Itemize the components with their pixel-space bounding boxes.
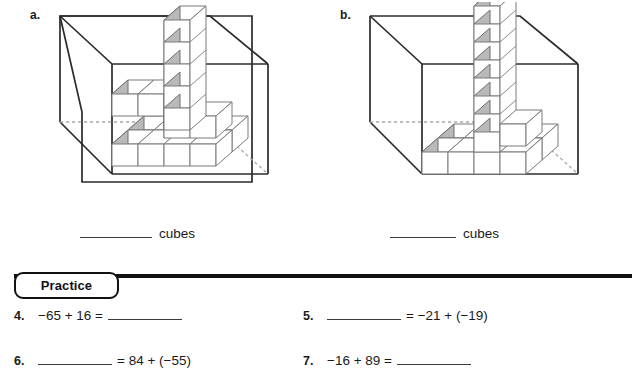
- exercise-7-answer-blank[interactable]: [397, 351, 471, 365]
- answer-line-a: cubes: [80, 224, 195, 241]
- exercise-row-2: 6. = 84 + (−55) 7. −16 + 89 =: [0, 351, 632, 392]
- exercise-4-number: 4.: [14, 309, 29, 323]
- open-box-with-stacked-cubes-a: .bx { fill:none; stroke:#2b2b2b; stroke-…: [50, 2, 280, 207]
- exercise-row-1: 4. −65 + 16 = 5. = −21 + (−19): [0, 306, 632, 351]
- exercise-7-number: 7.: [303, 354, 318, 368]
- item-letter-a: a.: [30, 8, 40, 22]
- practice-tab: Practice: [14, 272, 119, 299]
- exercise-grid: 4. −65 + 16 = 5. = −21 + (−19) 6. = 8: [0, 306, 632, 392]
- exercise-6: 6. = 84 + (−55): [14, 351, 191, 368]
- exercise-4-expression: −65 + 16 =: [38, 308, 103, 323]
- practice-section: Practice 4. −65 + 16 = 5. = −21 + (−19): [0, 262, 632, 392]
- figure-item-b: b.: [332, 0, 632, 262]
- answer-blank-b[interactable]: [390, 224, 456, 238]
- exercise-6-answer-blank[interactable]: [38, 351, 112, 365]
- exercise-6-number: 6.: [14, 354, 29, 368]
- answer-unit-a: cubes: [159, 226, 195, 241]
- exercise-5-expression: = −21 + (−19): [406, 308, 488, 323]
- figure-item-a: a. .bx { fill:none; stroke:#2b2b2b; stro…: [22, 0, 322, 262]
- open-box-with-stacked-cubes-b: [360, 2, 590, 207]
- answer-unit-b: cubes: [463, 226, 499, 241]
- answer-blank-a[interactable]: [80, 224, 152, 238]
- practice-tab-label: Practice: [41, 278, 92, 293]
- exercise-7: 7. −16 + 89 =: [303, 351, 471, 368]
- exercise-6-expression: = 84 + (−55): [117, 353, 191, 368]
- exercise-4: 4. −65 + 16 =: [14, 306, 182, 323]
- cube-column-a: [164, 6, 206, 130]
- exercise-5: 5. = −21 + (−19): [303, 306, 488, 323]
- exercise-5-number: 5.: [303, 309, 318, 323]
- exercise-7-expression: −16 + 89 =: [327, 353, 392, 368]
- exercise-4-answer-blank[interactable]: [108, 306, 182, 320]
- exercise-5-answer-blank[interactable]: [327, 306, 401, 320]
- answer-line-b: cubes: [390, 224, 499, 241]
- figures-region: a. .bx { fill:none; stroke:#2b2b2b; stro…: [0, 0, 632, 262]
- item-letter-b: b.: [340, 8, 351, 22]
